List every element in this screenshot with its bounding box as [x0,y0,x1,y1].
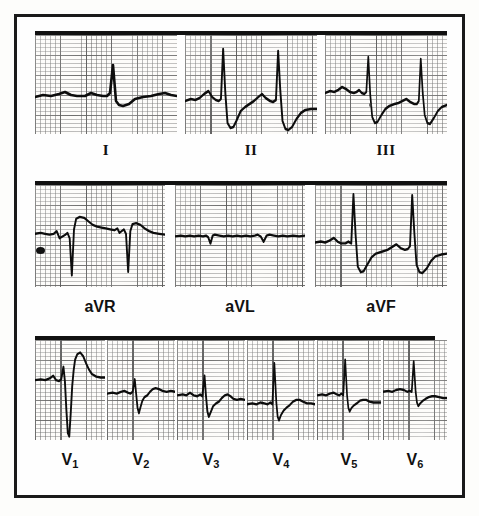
lead-label-V4: V4 [247,452,315,470]
lead-label-base: V [341,451,352,468]
lead-label-subscript: 2 [143,458,149,470]
ecg-panel-lead-III [325,35,447,134]
scan-artifact-blob [36,247,45,254]
ecg-trace-lead-I [35,35,177,134]
ecg-panel-lead-V4 [247,340,315,440]
lead-label-V3: V3 [177,452,245,470]
scan-artifact-speck [369,103,372,107]
ecg-panel-lead-V2 [107,340,175,440]
lead-label-I: I [35,143,177,158]
ecg-trace-lead-V1 [35,340,105,440]
ecg-row-limb-leads: I II III [17,31,462,171]
ecg-row-precordial-leads: V1 V2 V3 V4 V5 V6 [17,336,462,486]
ecg-trace-lead-aVR [35,185,165,287]
ecg-trace-lead-V6 [383,340,447,440]
ecg-panel-lead-II [185,35,317,134]
lead-label-base: V [133,451,144,468]
ecg-panel-lead-V1 [35,340,105,440]
lead-label-II: II [185,143,317,158]
ecg-trace-lead-III [325,35,447,134]
lead-label-subscript: 5 [351,458,357,470]
lead-label-base: V [273,451,284,468]
ecg-trace-lead-aVF [315,185,447,287]
figure-border-frame: I II III [14,14,465,498]
ecg-panel-lead-I [35,35,177,134]
ecg-row-augmented-leads: aVR aVL aVF [17,181,462,326]
ecg-panel-lead-aVL [175,185,305,287]
lead-label-III: III [325,143,447,158]
ecg-panel-lead-aVF [315,185,447,287]
ecg-trace-lead-V2 [107,340,175,440]
ecg-trace-lead-V5 [317,340,381,440]
lead-label-V2: V2 [107,452,175,470]
ecg-trace-lead-V3 [177,340,245,440]
lead-label-subscript: 4 [283,458,289,470]
ecg-trace-lead-aVL [175,185,305,287]
lead-label-subscript: 6 [417,458,423,470]
lead-label-base: V [203,451,214,468]
ecg-figure-page: I II III [0,0,479,516]
lead-label-aVF: aVF [315,299,447,315]
ecg-trace-lead-II [185,35,317,134]
ecg-panel-lead-V6 [383,340,447,440]
lead-label-aVR: aVR [35,299,165,315]
lead-label-base: V [62,451,73,468]
ecg-trace-lead-V4 [247,340,315,440]
lead-label-V6: V6 [383,452,447,470]
ecg-panel-lead-V5 [317,340,381,440]
lead-label-subscript: 1 [72,458,78,470]
lead-label-base: V [407,451,418,468]
ecg-panel-lead-V3 [177,340,245,440]
lead-label-aVL: aVL [175,299,305,315]
ecg-panel-lead-aVR [35,185,165,287]
lead-label-V1: V1 [35,452,105,470]
lead-label-V5: V5 [317,452,381,470]
lead-label-subscript: 3 [213,458,219,470]
